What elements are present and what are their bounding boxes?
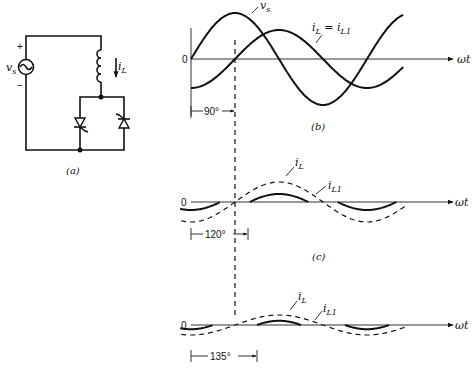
plot-d: 0 ωt iL iL1 135° xyxy=(180,290,469,362)
current-label: iL xyxy=(118,60,127,75)
minus-sign: − xyxy=(17,80,23,91)
iL1-leader-c xyxy=(316,186,326,194)
iL-leader-line xyxy=(316,35,322,43)
circuit-schematic: + − vs iL (a) xyxy=(6,36,130,176)
iL-label-c: iL xyxy=(295,156,304,171)
x-label-c: ωt xyxy=(455,196,469,209)
zero-label-c: 0 xyxy=(181,197,187,208)
vs-label: vs xyxy=(260,0,270,14)
vs-leader-line xyxy=(252,7,258,13)
thyristor-up-icon xyxy=(116,114,130,128)
angle-label-d: 135° xyxy=(210,351,231,362)
caption-b: (b) xyxy=(311,121,325,132)
iL-label-b: iL = iL1 xyxy=(312,21,351,36)
iL1-label-c: iL1 xyxy=(328,179,342,194)
wire-top xyxy=(26,36,101,60)
junction-dot-top xyxy=(99,95,104,100)
iL-label-d: iL xyxy=(298,290,307,305)
x-label-d: ωt xyxy=(455,319,469,332)
plot-c: 0 ωt iL iL1 120° (c) xyxy=(180,156,469,262)
inductor-icon xyxy=(97,50,101,82)
caption-a: (a) xyxy=(66,165,80,176)
plus-sign: + xyxy=(17,41,23,52)
angle-label-c: 120° xyxy=(205,229,226,240)
thyristor-down-icon xyxy=(74,118,88,132)
iL1-label-d: iL1 xyxy=(323,302,337,317)
iL1-leader-d xyxy=(315,311,322,320)
angle-label-b: 90° xyxy=(204,106,219,117)
junction-dot-bottom xyxy=(78,148,83,153)
caption-c: (c) xyxy=(312,251,326,262)
source-label: vs xyxy=(6,61,16,76)
plot-b: 0 ωt vs iL = iL1 90° (b) xyxy=(182,0,471,132)
ac-source-icon xyxy=(19,60,34,75)
iL-leader-d xyxy=(290,301,297,310)
x-label-b: ωt xyxy=(457,53,471,66)
diagram-canvas: + − vs iL (a) 0 ωt vs iL = iL1 90° (b) 0… xyxy=(0,0,474,374)
iL-leader-c xyxy=(286,167,294,176)
wire-left xyxy=(26,74,124,150)
zero-label-b: 0 xyxy=(182,54,188,65)
